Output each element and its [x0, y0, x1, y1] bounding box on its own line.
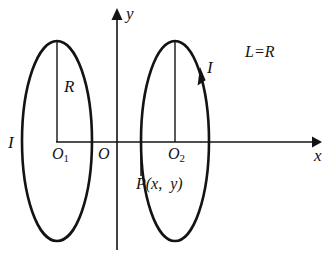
y-axis-arrowhead-icon [112, 8, 123, 20]
right-loop-center-label: O2 [168, 146, 185, 164]
left-loop-center-subscript: 1 [64, 152, 69, 164]
y-axis-label: y [126, 5, 134, 22]
x-axis [56, 137, 322, 148]
diagram-canvas [0, 0, 328, 267]
x-axis-label: x [314, 147, 322, 164]
separation-annotation-label: L=R [245, 44, 274, 60]
y-axis [112, 8, 123, 250]
left-loop-current-label: I [8, 134, 14, 151]
field-point-label: P(x, y) [136, 176, 183, 192]
radius-label: R [64, 78, 74, 95]
right-loop-current-label: I [207, 59, 213, 76]
left-loop-center-label: O1 [52, 146, 69, 164]
right-loop-center-letter: O [168, 145, 180, 162]
origin-label: O [98, 146, 110, 162]
right-loop-center-subscript: 2 [180, 152, 185, 164]
left-loop-center-letter: O [52, 145, 64, 162]
physics-diagram-figure: y x O O1 O2 R I I L=R P(x, y) [0, 0, 328, 267]
